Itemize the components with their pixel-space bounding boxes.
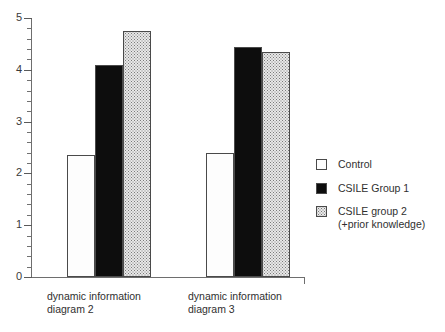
y-tick-label-text: 0 — [0, 271, 22, 282]
bar-g0-s2 — [123, 31, 151, 277]
bar-chart: 012345 dynamic information diagram 2 dyn… — [0, 0, 445, 332]
y-tick-minor — [27, 256, 32, 257]
legend-label-0: Control — [338, 158, 372, 171]
bar-g1-s1 — [234, 47, 262, 278]
legend-swatch-icon-0 — [316, 159, 327, 170]
y-tick-label-5: 5 — [0, 12, 22, 23]
y-tick-minor — [27, 215, 32, 216]
y-tick-minor — [27, 101, 32, 102]
y-tick-minor — [27, 39, 32, 40]
legend-label-1: CSILE Group 1 — [338, 182, 409, 195]
category-label-1: dynamic information diagram 3 — [188, 290, 282, 315]
y-tick-major-4 — [24, 70, 32, 71]
y-tick-minor — [27, 132, 32, 133]
y-tick-label-2: 2 — [0, 167, 22, 178]
y-tick-minor — [27, 91, 32, 92]
bar-g1-s2 — [262, 52, 290, 277]
y-tick-minor — [27, 28, 32, 29]
y-tick-label-text: 4 — [0, 64, 22, 75]
y-tick-major-0 — [24, 277, 32, 278]
legend-item-0[interactable]: Control — [316, 158, 442, 171]
y-axis-line — [31, 18, 32, 278]
y-tick-label-3: 3 — [0, 116, 22, 127]
y-tick-minor — [27, 163, 32, 164]
y-tick-minor — [27, 204, 32, 205]
bar-g0-s0 — [67, 155, 95, 277]
legend-swatch-icon-1 — [316, 183, 327, 194]
y-tick-label-1: 1 — [0, 219, 22, 230]
y-tick-minor — [27, 267, 32, 268]
y-tick-minor — [27, 49, 32, 50]
y-tick-label-4: 4 — [0, 64, 22, 75]
y-tick-label-text: 1 — [0, 219, 22, 230]
y-tick-minor — [27, 80, 32, 81]
category-label-0: dynamic information diagram 2 — [47, 290, 141, 315]
legend-item-1[interactable]: CSILE Group 1 — [316, 182, 442, 195]
y-tick-minor — [27, 142, 32, 143]
y-tick-label-0: 0 — [0, 271, 22, 282]
legend-label-2: CSILE group 2 (+prior knowledge) — [338, 205, 425, 230]
y-tick-major-3 — [24, 122, 32, 123]
y-tick-major-2 — [24, 173, 32, 174]
y-tick-minor — [27, 246, 32, 247]
legend: ControlCSILE Group 1CSILE group 2 (+prio… — [316, 158, 442, 241]
y-tick-label-text: 3 — [0, 116, 22, 127]
bar-g1-s0 — [206, 153, 234, 277]
legend-swatch-icon-2 — [316, 206, 327, 217]
x-axis-line — [31, 277, 305, 278]
y-tick-label-text: 2 — [0, 167, 22, 178]
bar-g0-s1 — [95, 65, 123, 277]
y-tick-minor — [27, 236, 32, 237]
x-axis-end-tick — [304, 277, 305, 284]
y-tick-major-5 — [24, 18, 32, 19]
y-tick-major-1 — [24, 225, 32, 226]
y-tick-minor — [27, 59, 32, 60]
y-tick-minor — [27, 153, 32, 154]
y-tick-minor — [27, 111, 32, 112]
legend-item-2[interactable]: CSILE group 2 (+prior knowledge) — [316, 205, 442, 230]
y-tick-label-text: 5 — [0, 12, 22, 23]
y-tick-minor — [27, 194, 32, 195]
y-tick-minor — [27, 184, 32, 185]
